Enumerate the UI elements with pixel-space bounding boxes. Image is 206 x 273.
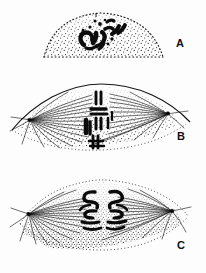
panel-c-cytoplasm-stipple (18, 180, 190, 252)
panel-c-anaphase (10, 180, 191, 252)
panel-c-centriole-right (170, 209, 174, 213)
panel-a-prophase (40, 8, 170, 60)
panel-c-centriole-left (26, 212, 30, 216)
panel-label-c: C (177, 240, 185, 251)
panel-b-metaphase (10, 84, 190, 152)
panel-b-centriole-left (28, 118, 32, 122)
panel-b-centriole-right (166, 112, 170, 116)
panel-label-a: A (176, 38, 184, 49)
panel-label-b: B (177, 131, 185, 142)
